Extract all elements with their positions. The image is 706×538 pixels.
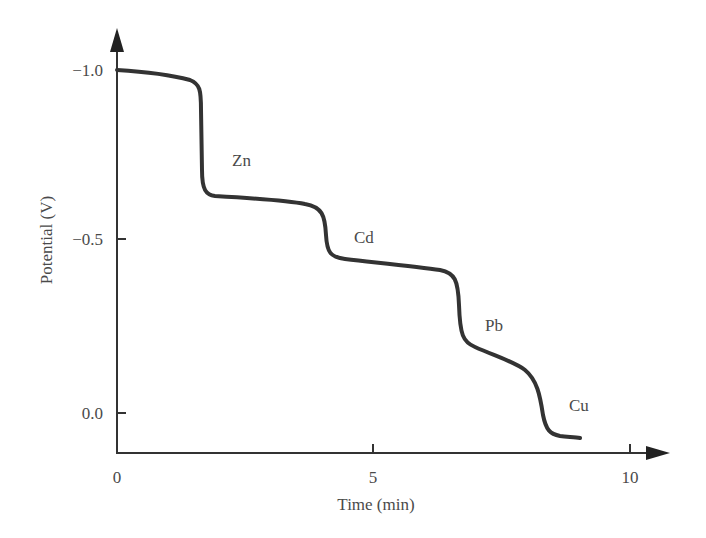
x-tick-label: 5 [369,468,378,487]
x-axis-label: Time (min) [337,495,414,514]
y-axis-label: Potential (V) [37,196,56,284]
annotation-pb: Pb [485,316,503,335]
chart-canvas: −1.0 −0.5 0.0 0 5 10 Time (min) Potentia… [0,0,706,538]
potential-curve [117,70,580,438]
x-axis-arrow-icon [646,446,670,460]
annotation-cd: Cd [354,228,374,247]
y-tick-label: 0.0 [82,404,103,423]
y-axis-arrow-icon [110,28,124,52]
chronopotentiogram-figure: −1.0 −0.5 0.0 0 5 10 Time (min) Potentia… [0,0,706,538]
annotation-cu: Cu [569,396,589,415]
x-tick-label: 10 [622,468,639,487]
y-tick-label: −1.0 [72,61,103,80]
x-tick-label: 0 [113,468,122,487]
annotation-zn: Zn [232,151,251,170]
y-tick-label: −0.5 [72,230,103,249]
